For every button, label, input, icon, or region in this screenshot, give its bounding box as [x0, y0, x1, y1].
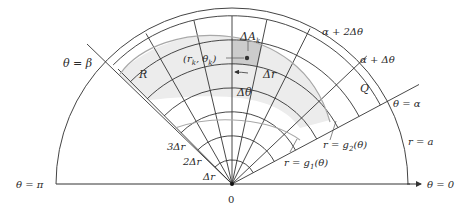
label-alpha-dtheta: α + Δθ [360, 54, 395, 65]
label-r-equals-a: r = a [408, 136, 434, 147]
sample-point [245, 56, 249, 60]
label-r-equals-g2: r = g2(θ) [323, 139, 367, 153]
label-r-equals-g1: r = g1(θ) [284, 157, 328, 171]
label-region-q: Q [360, 82, 369, 95]
origin-point [230, 182, 234, 186]
label-delta-theta: Δθ [236, 86, 252, 99]
label-theta-beta: θ = β [63, 57, 92, 70]
label-2-delta-r: 2Δr [182, 156, 203, 167]
label-alpha-2dtheta: α + 2Δθ [322, 26, 363, 37]
label-3-delta-r: 3Δr [167, 141, 187, 152]
polar-region-diagram: θ = β R Q α + 2Δθ α + Δθ θ = α r = a θ =… [0, 0, 466, 208]
label-origin: 0 [228, 194, 234, 205]
label-delta-r: Δr [262, 68, 277, 81]
label-theta-zero: θ = 0 [427, 179, 455, 190]
label-1-delta-r: Δr [202, 171, 216, 182]
label-delta-a-k: ΔAk [239, 30, 260, 45]
label-theta-alpha: θ = α [393, 98, 421, 109]
label-theta-pi: θ = π [16, 179, 44, 190]
label-region-r: R [138, 68, 147, 81]
